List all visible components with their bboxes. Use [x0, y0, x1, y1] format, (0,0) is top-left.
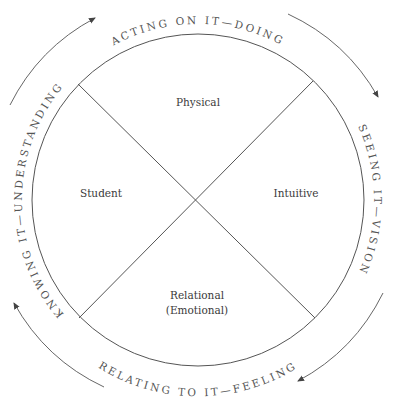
main-circle [32, 34, 364, 366]
quadrant-label-relational: Relational [170, 289, 225, 301]
quadrant-label-intuitive: Intuitive [274, 187, 319, 199]
quadrant-label-physical: Physical [176, 96, 221, 108]
cycle-diagram: Physical Student Intuitive Relational (E… [0, 0, 393, 400]
arc-label-vision: SEEING IT—VISION [356, 122, 384, 277]
arrow-acting-to-seeing [288, 14, 378, 97]
arrow-seeing-to-relating [298, 293, 383, 381]
arc-label-feeling: RELATING TO IT—FEELING [97, 359, 299, 398]
quadrant-label-emotional: (Emotional) [166, 304, 228, 316]
arc-label-understanding: KNOWING IT—UNDERSTANDING [12, 80, 66, 321]
diagonal-line-b [79, 81, 313, 318]
arc-label-doing: ACTING ON IT—DOING [108, 14, 287, 48]
quadrant-label-student: Student [80, 187, 123, 199]
